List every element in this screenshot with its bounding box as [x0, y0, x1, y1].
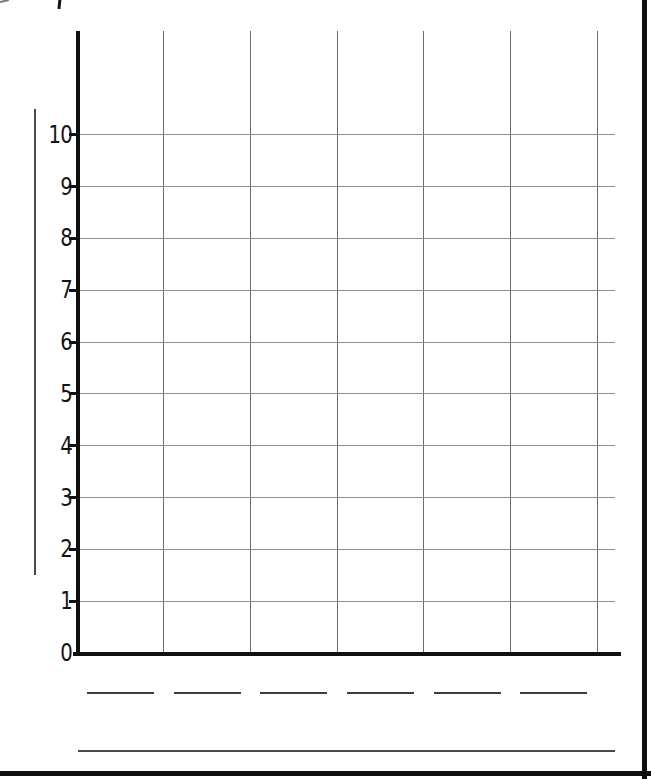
category-label-blank-line	[434, 692, 501, 694]
category-label-blank-line	[347, 692, 414, 694]
y-tick-label: 1	[29, 587, 72, 615]
page-border-right	[642, 0, 647, 779]
category-label-blank-line	[260, 692, 327, 694]
x-axis	[73, 652, 621, 656]
grid-hline	[77, 186, 615, 187]
grid-hline	[77, 290, 615, 291]
y-tick-label: 5	[29, 380, 72, 408]
grid-hline	[77, 549, 615, 550]
y-tick-label: 2	[29, 535, 72, 563]
y-tick-label: 10	[29, 121, 72, 149]
title-blank-line	[78, 750, 615, 752]
worksheet-page: 012345678910	[0, 0, 651, 779]
category-label-blank-line	[174, 692, 241, 694]
grid-hline	[77, 393, 615, 394]
cropped-ink-mark-corner	[0, 0, 9, 3]
page-border-bottom	[0, 771, 651, 776]
y-tick-label: 6	[29, 328, 72, 356]
grid-hline	[77, 134, 615, 135]
category-label-blank-line	[520, 692, 587, 694]
y-axis	[76, 31, 80, 656]
grid-hline	[77, 342, 615, 343]
grid-hline	[77, 445, 615, 446]
grid-hline	[77, 601, 615, 602]
y-tick-label: 4	[29, 432, 72, 460]
y-tick-label: 3	[29, 484, 72, 512]
y-tick-label: 8	[29, 224, 72, 252]
grid-hline	[77, 497, 615, 498]
category-label-blank-line	[87, 692, 154, 694]
y-tick-label: 7	[29, 276, 72, 304]
y-tick-label: 0	[29, 639, 72, 667]
cropped-ink-mark-top	[57, 0, 61, 9]
grid-hline	[77, 238, 615, 239]
y-tick-label: 9	[29, 173, 72, 201]
